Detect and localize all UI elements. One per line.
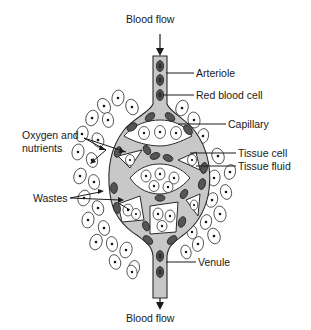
label-tissue-fluid: Tissue fluid [238, 160, 291, 172]
label-oxygen-line2: nutrients [22, 142, 62, 154]
label-capillary: Capillary [228, 118, 270, 130]
flow-arrow-down-top-icon [156, 34, 164, 56]
capillary-bed-diagram: Blood flow [0, 0, 311, 330]
label-tissue-cell: Tissue cell [238, 147, 287, 159]
label-red-blood-cell: Red blood cell [196, 89, 263, 101]
blood-flow-top-label: Blood flow [126, 13, 175, 25]
label-venule: Venule [198, 256, 230, 268]
blood-flow-bottom-label: Blood flow [126, 312, 175, 324]
label-oxygen-line1: Oxygen and [22, 129, 79, 141]
label-wastes: Wastes [33, 192, 68, 204]
label-arteriole: Arteriole [196, 67, 235, 79]
flow-arrow-down-bottom-icon [156, 298, 164, 310]
